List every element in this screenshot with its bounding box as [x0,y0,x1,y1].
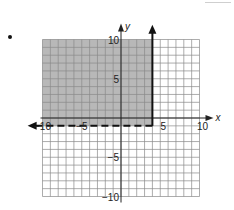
y-tick-label: 5 [113,74,119,85]
y-tick-label: 10 [108,35,120,46]
x-axis-label: x [215,112,222,123]
y-tick-label: −10 [102,192,119,203]
y-axis-arrow-icon [118,24,124,32]
boundary-arrow-icon [148,25,156,34]
y-axis-label: y [124,21,131,32]
y-tick-label: −5 [108,152,120,163]
x-tick-label: −5 [76,121,88,132]
x-tick-label: 10 [197,121,209,132]
x-tick-label: 5 [160,121,166,132]
coordinate-plane: xy −10−5510105−5−10 [0,0,234,210]
x-tick-label: −10 [34,121,51,132]
